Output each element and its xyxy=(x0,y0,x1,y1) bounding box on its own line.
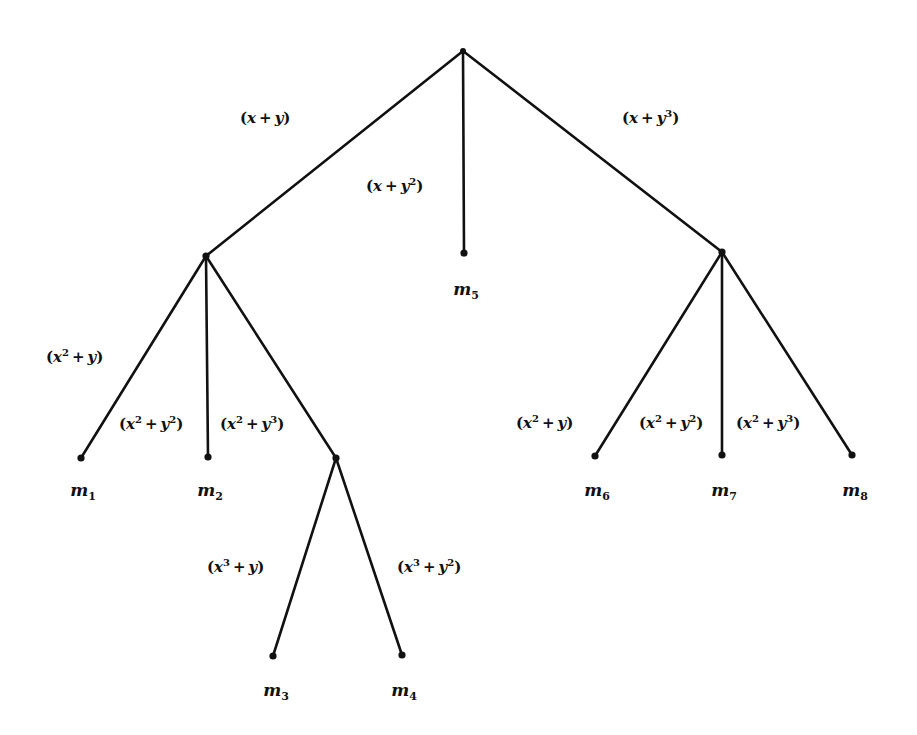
paren-close: ) xyxy=(696,414,703,432)
tree-node-m3 xyxy=(269,652,276,659)
leaf-label-m3: m3 xyxy=(263,682,289,699)
tree-node-m8 xyxy=(848,451,855,458)
x-exponent: 2 xyxy=(135,414,142,425)
leaf-label-base: m xyxy=(70,480,88,500)
var-x: x xyxy=(743,414,752,432)
paren-close: ) xyxy=(277,415,284,433)
leaf-label-subscript: 3 xyxy=(281,690,289,703)
leaf-label-m7: m7 xyxy=(711,482,737,499)
plus-sign: + xyxy=(230,558,249,576)
tree-edge-n13-m4 xyxy=(336,458,402,655)
tree-node-m2 xyxy=(204,453,211,460)
var-x: x xyxy=(404,558,413,576)
var-x: x xyxy=(214,558,223,576)
edge-label: (x2 + y2) xyxy=(119,417,183,432)
var-x: x xyxy=(646,414,655,432)
var-x: x xyxy=(227,415,236,433)
tree-node-n1 xyxy=(202,252,209,259)
tree-node-m5 xyxy=(460,249,467,256)
edge-label: (x2 + y3) xyxy=(220,417,284,432)
plus-sign: + xyxy=(243,415,262,433)
edge-label: (x2 + y2) xyxy=(639,416,703,431)
tree-node-n13 xyxy=(332,454,339,461)
leaf-label-subscript: 5 xyxy=(471,289,479,302)
leaf-label-base: m xyxy=(842,480,860,500)
edge-label: (x + y) xyxy=(240,111,290,126)
tree-node-m7 xyxy=(718,451,725,458)
var-x: x xyxy=(53,348,62,366)
var-y: y xyxy=(439,558,448,576)
paren-close: ) xyxy=(283,109,290,127)
leaf-label-base: m xyxy=(263,680,281,700)
x-exponent: 3 xyxy=(223,557,230,568)
var-x: x xyxy=(126,415,135,433)
plus-sign: + xyxy=(662,414,681,432)
tree-edge-root-m5 xyxy=(463,51,464,253)
tree-node-root xyxy=(460,48,466,54)
paren-close: ) xyxy=(176,415,183,433)
var-x: x xyxy=(247,109,256,127)
leaf-label-subscript: 1 xyxy=(88,490,96,503)
leaf-label-subscript: 2 xyxy=(215,490,223,503)
leaf-label-m5: m5 xyxy=(453,281,479,298)
tree-edge-root-n1 xyxy=(206,51,463,256)
edge-label: (x2 + y) xyxy=(46,350,103,365)
var-y: y xyxy=(778,414,787,432)
leaf-label-base: m xyxy=(391,680,409,700)
var-x: x xyxy=(629,109,638,127)
plus-sign: + xyxy=(539,414,558,432)
var-y: y xyxy=(558,414,567,432)
plus-sign: + xyxy=(256,109,275,127)
leaf-label-subscript: 7 xyxy=(729,490,737,503)
edge-label: (x + y2) xyxy=(366,179,423,194)
x-exponent: 3 xyxy=(413,557,420,568)
plus-sign: + xyxy=(759,414,778,432)
edge-label: (x2 + y) xyxy=(516,416,573,431)
var-y: y xyxy=(161,415,170,433)
paren-close: ) xyxy=(416,177,423,195)
x-exponent: 2 xyxy=(752,413,759,424)
leaf-label-m4: m4 xyxy=(391,682,417,699)
paren-close: ) xyxy=(793,414,800,432)
leaf-label-base: m xyxy=(453,279,471,299)
leaf-label-subscript: 8 xyxy=(860,490,868,503)
plus-sign: + xyxy=(69,348,88,366)
var-y: y xyxy=(249,558,258,576)
leaf-label-subscript: 4 xyxy=(409,690,417,703)
var-y: y xyxy=(681,414,690,432)
paren-close: ) xyxy=(566,414,573,432)
leaf-label-m1: m1 xyxy=(70,482,96,499)
paren-close: ) xyxy=(454,558,461,576)
var-y: y xyxy=(262,415,271,433)
var-x: x xyxy=(523,414,532,432)
var-x: x xyxy=(373,177,382,195)
var-y: y xyxy=(88,348,97,366)
plus-sign: + xyxy=(638,109,657,127)
tree-edge-root-n3 xyxy=(463,51,722,252)
tree-edges-canvas xyxy=(0,0,917,735)
paren-close: ) xyxy=(672,109,679,127)
edge-label: (x2 + y3) xyxy=(736,416,800,431)
paren-close: ) xyxy=(257,558,264,576)
x-exponent: 2 xyxy=(62,347,69,358)
paren-close: ) xyxy=(96,348,103,366)
x-exponent: 2 xyxy=(236,414,243,425)
leaf-label-base: m xyxy=(197,480,215,500)
edge-label: (x3 + y) xyxy=(207,560,264,575)
plus-sign: + xyxy=(142,415,161,433)
leaf-label-base: m xyxy=(584,480,602,500)
tree-nodes xyxy=(77,48,855,660)
tree-node-m1 xyxy=(77,454,84,461)
x-exponent: 2 xyxy=(655,413,662,424)
tree-edge-n1-m2 xyxy=(206,256,208,457)
tree-node-m4 xyxy=(398,651,405,658)
tree-edge-n13-m3 xyxy=(273,458,336,656)
edge-label: (x3 + y2) xyxy=(397,560,461,575)
leaf-label-subscript: 6 xyxy=(602,490,610,503)
plus-sign: + xyxy=(420,558,439,576)
leaf-label-base: m xyxy=(711,480,729,500)
leaf-label-m6: m6 xyxy=(584,482,610,499)
tree-node-m6 xyxy=(591,452,598,459)
x-exponent: 2 xyxy=(532,413,539,424)
leaf-label-m2: m2 xyxy=(197,482,223,499)
